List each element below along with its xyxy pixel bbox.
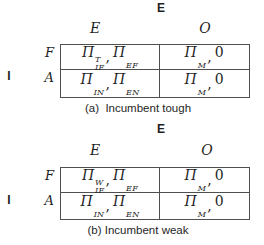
payoff-separator: ,: [207, 172, 211, 188]
caption-a: (a) Incumbent tough: [58, 101, 218, 115]
column-header-e: E: [83, 21, 107, 36]
entrant-payoff: ΠEF: [113, 44, 138, 70]
payoff-table-a: ΠTIF,ΠEF ΠM,0 ΠIN,ΠEN ΠM,0: [60, 44, 250, 98]
entrant-payoff: 0: [215, 193, 225, 219]
column-player-label: E: [149, 122, 173, 137]
row-player-label: I: [2, 69, 16, 84]
payoff-cell-f-e: ΠTIF,ΠEF: [61, 45, 160, 70]
incumbent-payoff: ΠM: [184, 167, 206, 193]
payoff-separator: ,: [207, 76, 211, 92]
payoff-table-b: ΠWIF,ΠEF ΠM,0 ΠIN,ΠEN ΠM,0: [60, 167, 250, 220]
incumbent-payoff: ΠIN: [80, 71, 104, 97]
payoff-matrices-figure: E E O I F A ΠTIF,ΠEF ΠM,0 ΠIN,ΠEN ΠM,0 (…: [0, 0, 264, 245]
column-header-o: O: [195, 143, 219, 158]
column-player-label: E: [149, 1, 173, 16]
payoff-cell-a-o: ΠM,0: [160, 70, 249, 97]
payoff-cell-f-e: ΠWIF,ΠEF: [61, 168, 160, 193]
payoff-cell-f-o: ΠM,0: [160, 45, 249, 70]
row-header-f: F: [28, 45, 54, 60]
incumbent-payoff: ΠM: [184, 193, 206, 219]
column-header-o: O: [193, 21, 217, 36]
row-header-a: A: [28, 193, 54, 208]
row-header-a: A: [28, 70, 54, 85]
entrant-payoff: ΠEN: [113, 71, 140, 97]
incumbent-payoff: ΠWIF: [82, 167, 105, 194]
entrant-payoff: 0: [215, 44, 225, 70]
payoff-cell-a-e: ΠIN,ΠEN: [61, 70, 160, 97]
column-header-e: E: [83, 143, 107, 158]
row-header-f: F: [28, 168, 54, 183]
payoff-cell-a-e: ΠIN,ΠEN: [61, 193, 160, 219]
payoff-cell-a-o: ΠM,0: [160, 193, 249, 219]
payoff-separator: ,: [207, 198, 211, 214]
incumbent-payoff: ΠTIF: [82, 44, 105, 71]
incumbent-payoff: ΠIN: [80, 193, 104, 219]
incumbent-payoff: ΠM: [184, 44, 206, 70]
payoff-separator: ,: [105, 49, 109, 65]
row-player-label: I: [2, 193, 16, 208]
payoff-separator: ,: [105, 198, 109, 214]
payoff-separator: ,: [207, 49, 211, 65]
entrant-payoff: ΠEN: [113, 193, 140, 219]
payoff-separator: ,: [105, 76, 109, 92]
entrant-payoff: 0: [215, 71, 225, 97]
entrant-payoff: ΠEF: [113, 167, 138, 193]
incumbent-payoff: ΠM: [184, 71, 206, 97]
payoff-separator: ,: [105, 172, 109, 188]
payoff-cell-f-o: ΠM,0: [160, 168, 249, 193]
caption-b: (b) Incumbent weak: [58, 223, 218, 237]
entrant-payoff: 0: [215, 167, 225, 193]
